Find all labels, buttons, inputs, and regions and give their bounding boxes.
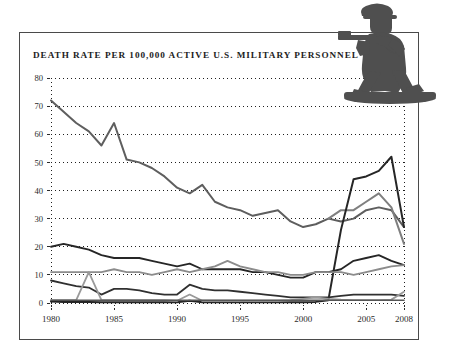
x-axis-tick-label: 1990 <box>168 314 187 324</box>
y-axis-tick-label: 10 <box>34 270 43 280</box>
x-axis-tick-label: 1985 <box>105 314 124 324</box>
figure-root: DEATH RATE PER 100,000 ACTIVE U.S. MILIT… <box>0 0 456 357</box>
x-axis-tick-label: 1980 <box>42 314 61 324</box>
series-line <box>51 272 404 301</box>
series-group <box>51 101 404 303</box>
x-axis-tick-label: 1995 <box>231 314 250 324</box>
x-axis-labels: 1980198519901995200020052008 <box>42 314 414 324</box>
y-axis-tick-label: 60 <box>34 129 43 139</box>
y-axis-tick-label: 30 <box>34 214 43 224</box>
toy-soldier-icon <box>336 1 448 105</box>
x-axis-tick-label: 2005 <box>357 314 376 324</box>
series-line <box>51 101 404 228</box>
y-axis-tick-label: 50 <box>34 158 43 168</box>
series-line <box>51 157 404 302</box>
y-axis-labels: 01020304050607080 <box>34 73 43 308</box>
x-axis-tick-label: 2008 <box>395 314 414 324</box>
y-axis-tick-label: 80 <box>34 73 43 83</box>
series-line <box>51 281 404 298</box>
x-axis-tick-label: 2000 <box>294 314 313 324</box>
y-axis-tick-label: 70 <box>34 101 43 111</box>
y-axis-tick-label: 40 <box>34 186 43 196</box>
y-axis-tick-label: 0 <box>39 298 43 308</box>
y-axis-tick-label: 20 <box>34 242 43 252</box>
